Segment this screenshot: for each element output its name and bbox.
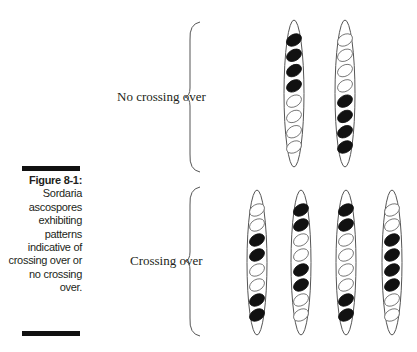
- asci-diagram: [0, 0, 417, 352]
- figure-stage: Figure 8-1: Sordaria ascospores exhibiti…: [0, 0, 417, 352]
- brace-crossing-over: [185, 187, 200, 336]
- brace-no-crossing-over: [185, 22, 200, 172]
